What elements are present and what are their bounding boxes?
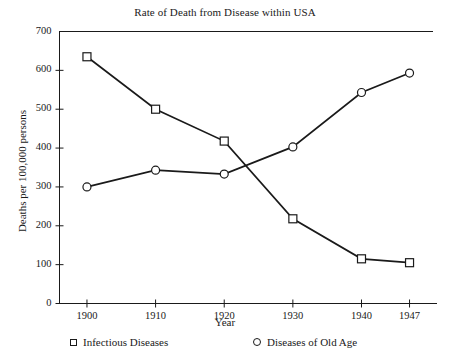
- x-tick-label: 1920: [202, 310, 246, 321]
- y-tick-label: 700: [18, 25, 52, 36]
- square-marker-icon: [358, 255, 366, 263]
- legend-item-infectious-diseases[interactable]: Infectious Diseases: [70, 336, 168, 348]
- legend-label: Infectious Diseases: [83, 336, 168, 348]
- x-tick-label: 1930: [271, 310, 315, 321]
- series-line-square: [87, 57, 410, 263]
- legend-item-diseases-of-old-age[interactable]: Diseases of Old Age: [253, 336, 357, 348]
- y-tick-label: 0: [18, 297, 52, 308]
- y-tick-label: 400: [18, 141, 52, 152]
- circle-marker-icon: [83, 183, 91, 191]
- chart-legend: Infectious Diseases Diseases of Old Age: [0, 336, 450, 356]
- square-marker-icon: [406, 259, 414, 267]
- legend-label: Diseases of Old Age: [267, 336, 357, 348]
- circle-marker-icon: [253, 338, 261, 346]
- chart-figure: Rate of Death from Disease within USA De…: [0, 0, 450, 363]
- y-tick-label: 300: [18, 180, 52, 191]
- y-tick-label: 600: [18, 63, 52, 74]
- x-tick-label: 1910: [134, 310, 178, 321]
- circle-marker-icon: [406, 69, 414, 77]
- circle-marker-icon: [220, 170, 228, 178]
- y-tick-label: 500: [18, 102, 52, 113]
- x-tick-label: 1947: [388, 310, 432, 321]
- x-tick-label: 1940: [340, 310, 384, 321]
- circle-marker-icon: [358, 89, 366, 97]
- square-marker-icon: [289, 215, 297, 223]
- circle-marker-icon: [289, 143, 297, 151]
- square-marker-icon: [152, 105, 160, 113]
- square-marker-icon: [83, 53, 91, 61]
- y-tick-label: 100: [18, 258, 52, 269]
- y-tick-label: 200: [18, 219, 52, 230]
- circle-marker-icon: [152, 166, 160, 174]
- square-marker-icon: [220, 137, 228, 145]
- x-tick-label: 1900: [65, 310, 109, 321]
- data-series-group: [83, 53, 414, 267]
- square-marker-icon: [70, 339, 77, 346]
